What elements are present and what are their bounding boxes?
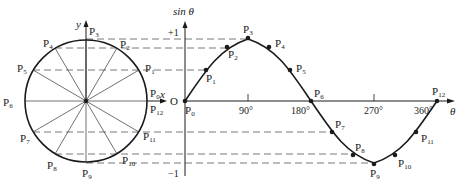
svg-text:P0: P0 [185,104,195,118]
theta-axis-label: θ [450,105,456,117]
sine-graph: sin θ +1 −1 O 90° 180° 270° 360° θ P0 P1… [168,5,456,181]
svg-text:P2: P2 [228,48,238,62]
svg-text:P12: P12 [150,103,164,117]
svg-text:P8: P8 [47,159,57,173]
sin-axis-label: sin θ [173,5,195,17]
y-axis-label: y [75,18,81,30]
svg-text:P9: P9 [82,167,92,181]
svg-text:P6: P6 [314,87,324,101]
svg-text:P5: P5 [296,62,306,76]
tick-plus-1: +1 [168,27,179,38]
x-axis-label: x [159,88,165,100]
svg-text:P6: P6 [3,96,13,110]
svg-text:P1: P1 [206,72,216,86]
svg-text:P0: P0 [150,87,160,101]
y-arrow-icon [84,20,89,27]
tick-90: 90° [239,105,253,116]
svg-text:P10: P10 [398,157,412,171]
svg-text:P5: P5 [17,62,27,76]
center-dot [84,99,88,103]
tick-270: 270° [364,105,383,116]
svg-text:P2: P2 [120,38,130,52]
svg-text:P12: P12 [432,85,446,99]
tick-180: 180° [291,105,310,116]
svg-text:P1: P1 [145,62,155,76]
svg-text:P8: P8 [355,141,365,155]
svg-text:P4: P4 [43,37,53,51]
tick-minus-1: −1 [168,168,179,179]
origin-label: O [170,95,178,107]
svg-text:P3: P3 [89,25,99,39]
sin-axis-arrow-icon [183,21,188,28]
sine-projection-diagram: y x P3 P2 P1 P0 P12 P11 P10 P9 P8 P7 P6 … [0,0,469,188]
svg-text:P3: P3 [243,23,253,37]
svg-text:P11: P11 [421,132,434,146]
svg-text:P7: P7 [335,118,345,132]
svg-text:P4: P4 [275,37,285,51]
svg-text:P7: P7 [20,132,30,146]
svg-text:P10: P10 [122,154,136,168]
theta-axis-arrow-icon [447,99,455,104]
svg-text:P9: P9 [370,167,380,181]
